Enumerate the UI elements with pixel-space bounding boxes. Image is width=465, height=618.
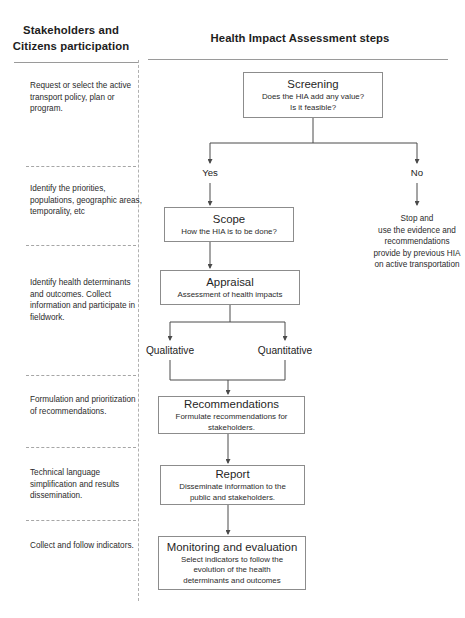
left-separator-4 bbox=[26, 447, 136, 448]
box-appraisal[interactable]: Appraisal Assessment of health impacts bbox=[160, 270, 300, 305]
path-label-quantitative: Quantitative bbox=[241, 344, 329, 357]
left-separator-3 bbox=[26, 375, 136, 376]
left-note-4: Formulation and prioritization of recomm… bbox=[30, 394, 142, 417]
box-monitoring-evaluation[interactable]: Monitoring and evaluation Select indicat… bbox=[158, 536, 306, 590]
left-note-2: Identify the priorities, populations, ge… bbox=[30, 183, 142, 218]
box-recommendations[interactable]: Recommendations Formulate recommendation… bbox=[158, 396, 305, 434]
column-divider bbox=[138, 60, 139, 601]
left-column-header: Stakeholders and Citizens participation bbox=[8, 22, 134, 54]
box-scope-title: Scope bbox=[213, 212, 245, 226]
stop-note-line3: recommendations bbox=[342, 236, 465, 248]
figure-caption bbox=[14, 607, 444, 618]
left-separator-2 bbox=[26, 245, 136, 246]
box-screening-title: Screening bbox=[287, 77, 338, 91]
left-note-5: Technical language simplification and re… bbox=[30, 467, 142, 502]
stop-note-line2: use the evidence and bbox=[342, 225, 465, 237]
box-scope-sub-line1: How the HIA is to be done? bbox=[181, 227, 277, 237]
box-monitoring-title: Monitoring and evaluation bbox=[167, 540, 297, 554]
left-note-6: Collect and follow indicators. bbox=[30, 540, 142, 552]
box-screening-sub-line2: Is it feasible? bbox=[290, 103, 336, 113]
right-column-header: Health Impact Assessment steps bbox=[150, 30, 450, 46]
box-monitoring-sub-line1: Select indicators to follow the bbox=[181, 555, 283, 565]
stop-note-line5: on active transportation bbox=[342, 259, 465, 271]
box-screening-sub-line1: Does the HIA add any value? bbox=[262, 92, 364, 102]
right-header-rule bbox=[148, 59, 448, 60]
stop-note: Stop and use the evidence and recommenda… bbox=[342, 213, 465, 271]
branch-label-yes: Yes bbox=[186, 167, 234, 179]
box-report-sub-line1: Disseminate information to the bbox=[179, 482, 286, 492]
box-appraisal-title: Appraisal bbox=[206, 275, 254, 289]
path-label-qualitative: Qualitative bbox=[130, 344, 210, 357]
left-separator-5 bbox=[26, 520, 136, 521]
left-note-1: Request or select the active transport p… bbox=[30, 80, 142, 115]
box-report[interactable]: Report Disseminate information to the pu… bbox=[160, 465, 305, 505]
box-monitoring-sub-line3: determinants and outcomes bbox=[183, 576, 280, 586]
box-screening[interactable]: Screening Does the HIA add any value? Is… bbox=[243, 72, 383, 118]
stop-note-line4: provide by previous HIA bbox=[342, 248, 465, 260]
box-scope[interactable]: Scope How the HIA is to be done? bbox=[164, 207, 294, 242]
box-monitoring-sub-line2: evolution of the health bbox=[193, 565, 270, 575]
box-appraisal-sub-line1: Assessment of health impacts bbox=[178, 290, 283, 300]
box-recommendations-sub-line1: Formulate recommendations for bbox=[176, 412, 288, 422]
box-recommendations-sub-line2: stakeholders. bbox=[208, 423, 255, 433]
left-header-rule bbox=[14, 62, 138, 63]
box-report-sub-line2: public and stakeholders. bbox=[190, 493, 275, 503]
box-recommendations-title: Recommendations bbox=[184, 397, 279, 411]
box-report-title: Report bbox=[215, 467, 249, 481]
left-note-3: Identify health determinants and outcome… bbox=[30, 277, 142, 323]
stop-note-line1: Stop and bbox=[342, 213, 465, 225]
left-separator-1 bbox=[26, 166, 136, 167]
branch-label-no: No bbox=[393, 167, 441, 179]
